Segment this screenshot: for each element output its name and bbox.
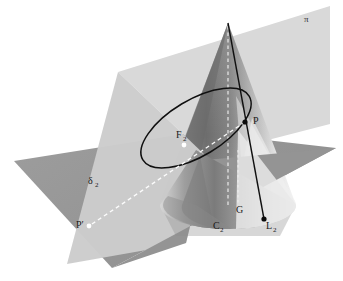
figure-canvas: π P F 2 δ 2 P′ C 2 G L 2: [0, 0, 343, 281]
label-l2-base: L: [266, 220, 272, 231]
label-delta2-subscript: 2: [95, 181, 99, 189]
label-c2-subscript: 2: [220, 226, 224, 234]
geometry-diagram-svg: π P F 2 δ 2 P′ C 2 G L 2: [0, 0, 343, 281]
label-g: G: [236, 204, 243, 215]
point-p-prime: [87, 224, 92, 229]
label-f2-base: F: [176, 129, 182, 140]
label-pi: π: [304, 14, 309, 24]
label-f2-subscript: 2: [183, 135, 187, 143]
label-c2-base: C: [213, 220, 220, 231]
label-p: P: [253, 115, 259, 126]
label-l2-subscript: 2: [273, 226, 277, 234]
point-p: [242, 119, 247, 124]
label-delta2-base: δ: [88, 175, 93, 186]
label-p-prime: P′: [76, 219, 84, 230]
focus-f2-point: [182, 143, 187, 148]
